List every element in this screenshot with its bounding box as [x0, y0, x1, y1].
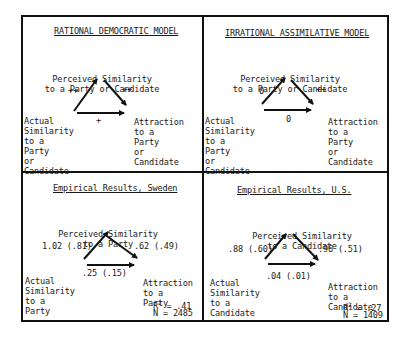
sample-size: N = 2485	[153, 308, 193, 318]
attraction-label: Attractionto aCandidate	[328, 262, 378, 332]
path-coef-perceived-attraction: ++	[316, 85, 326, 95]
attraction-label: Attractionto aPartyorCandidate	[328, 97, 378, 187]
actual-similarity-label: ActualSimilarityto aPartyorCandidate	[24, 96, 74, 196]
path-coef-actual-attraction: 0	[286, 114, 291, 124]
path-coef-perceived-attraction: .62 (.49)	[134, 241, 179, 251]
panel-title: Empirical Results, U.S.	[237, 185, 351, 195]
path-coef-perceived-attraction: .96 (.51)	[318, 244, 363, 254]
attraction-label: Attractionto aPartyorCandidate	[134, 97, 184, 187]
path-coef-actual-perceived: 1.02 (.81)	[42, 241, 92, 251]
path-coef-perceived-attraction: ++	[122, 85, 132, 95]
path-coef-actual-perceived: .88 (.60)	[228, 244, 273, 254]
path-coef-actual-attraction: +	[96, 116, 101, 126]
path-coef-actual-attraction: .25 (.15)	[82, 268, 127, 278]
path-coef-actual-attraction: .04 (.01)	[266, 271, 311, 281]
actual-similarity-label: ActualSimilarityto aPartyorCandidate	[205, 96, 255, 196]
actual-similarity-label: ActualSimilarityto aCandidate	[210, 258, 260, 338]
sample-size: N = 1409	[343, 310, 383, 320]
panel-title: RATIONAL DEMOCRATIC MODEL	[54, 26, 178, 36]
panel-title: IRRATIONAL ASSIMILATIVE MODEL	[225, 28, 369, 38]
actual-similarity-label: ActualSimilarityto aParty	[25, 256, 75, 336]
panel-title: Empirical Results, Sweden	[53, 183, 177, 193]
path-coef-actual-perceived: 0	[259, 86, 264, 96]
path-coef-actual-perceived: ++	[68, 86, 78, 96]
